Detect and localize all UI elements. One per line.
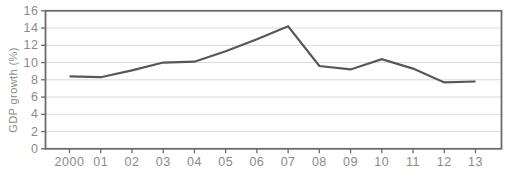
x-tick-label: 2000	[55, 155, 85, 169]
y-tick-label: 4	[31, 107, 38, 121]
x-tick-label: 02	[125, 155, 140, 169]
x-tick-label: 13	[468, 155, 483, 169]
y-axis-title: GDP growth (%)	[6, 20, 20, 160]
x-tick-label: 01	[93, 155, 108, 169]
x-tick-label: 06	[249, 155, 264, 169]
y-tick-label: 2	[31, 125, 38, 139]
y-tick-label: 0	[31, 142, 38, 156]
x-tick-label: 05	[218, 155, 233, 169]
x-tick-label: 04	[187, 155, 202, 169]
line-plot: 0246810121416200001020304050607080910111…	[0, 0, 506, 179]
y-tick-label: 10	[24, 56, 39, 70]
gdp-growth-chart: GDP growth (%) 0246810121416200001020304…	[0, 0, 506, 179]
y-tick-label: 12	[24, 38, 39, 52]
x-tick-label: 12	[437, 155, 452, 169]
x-tick-label: 11	[406, 155, 420, 169]
y-tick-label: 14	[24, 21, 39, 35]
x-tick-label: 08	[312, 155, 327, 169]
y-tick-label: 8	[31, 73, 38, 87]
x-tick-label: 09	[343, 155, 358, 169]
plot-background	[0, 0, 506, 179]
x-tick-label: 10	[374, 155, 389, 169]
y-tick-label: 6	[31, 90, 38, 104]
x-tick-label: 07	[281, 155, 296, 169]
x-tick-label: 03	[156, 155, 171, 169]
y-tick-label: 16	[24, 4, 39, 18]
